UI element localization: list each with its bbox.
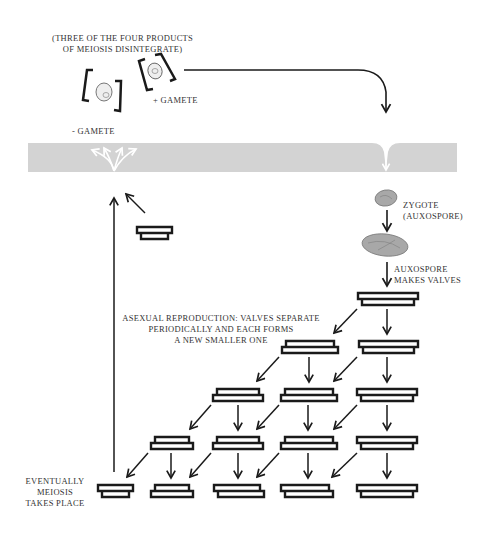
meiosis-products-label: (THREE OF THE FOUR PRODUCTS OF MEIOSIS D… (52, 33, 193, 55)
auxospore-label: AUXOSPORE MAKES VALVES (394, 264, 461, 286)
valve (98, 485, 133, 497)
minus-gamete-label: - GAMETE (72, 126, 115, 137)
disintegrating-meiosis-product-left (83, 70, 121, 111)
valve (281, 485, 333, 497)
auxospore-cell (361, 232, 409, 259)
valve (281, 389, 337, 401)
valve (359, 341, 418, 353)
valve (281, 437, 337, 449)
asexual-label-line1: ASEXUAL REPRODUCTION: VALVES SEPARATE (111, 313, 331, 324)
valve (151, 485, 193, 497)
eventually-meiosis-line1: EVENTUALLY (20, 476, 90, 487)
valve (137, 227, 172, 239)
valve (214, 485, 264, 497)
small-valve-to-surface-arrow (126, 194, 145, 213)
valve (213, 437, 263, 449)
surviving-meiosis-product-plus-gamete (139, 54, 175, 90)
valve (213, 389, 263, 401)
asexual-label-line2: PERIODICALLY AND EACH FORMS (111, 324, 331, 335)
zygote-cell (374, 188, 398, 208)
valve-grid (98, 227, 418, 497)
asexual-reproduction-label: ASEXUAL REPRODUCTION: VALVES SEPARATE PE… (111, 313, 331, 346)
auxospore-label-line1: AUXOSPORE (394, 264, 461, 275)
meiosis-products-label-line2: OF MEIOSIS DISINTEGRATE) (52, 44, 193, 55)
eventually-meiosis-line3: TAKES PLACE (20, 498, 90, 509)
meiosis-products-label-line1: (THREE OF THE FOUR PRODUCTS (52, 33, 193, 44)
valve (358, 293, 418, 305)
zygote-label: ZYGOTE (AUXOSPORE) (403, 200, 463, 222)
zygote-label-line1: ZYGOTE (403, 200, 463, 211)
valve (357, 389, 417, 401)
valve (357, 437, 417, 449)
gamete-migration-arrow (184, 70, 386, 112)
valve (151, 437, 193, 449)
eventually-meiosis-label: EVENTUALLY MEIOSIS TAKES PLACE (20, 476, 90, 509)
zygote-label-line2: (AUXOSPORE) (403, 211, 463, 222)
water-surface-band (28, 143, 457, 172)
eventually-meiosis-line2: MEIOSIS (20, 487, 90, 498)
valve (357, 485, 417, 497)
auxospore-label-line2: MAKES VALVES (394, 275, 461, 286)
plus-gamete-label: + GAMETE (153, 95, 198, 106)
asexual-label-line3: A NEW SMALLER ONE (111, 335, 331, 346)
